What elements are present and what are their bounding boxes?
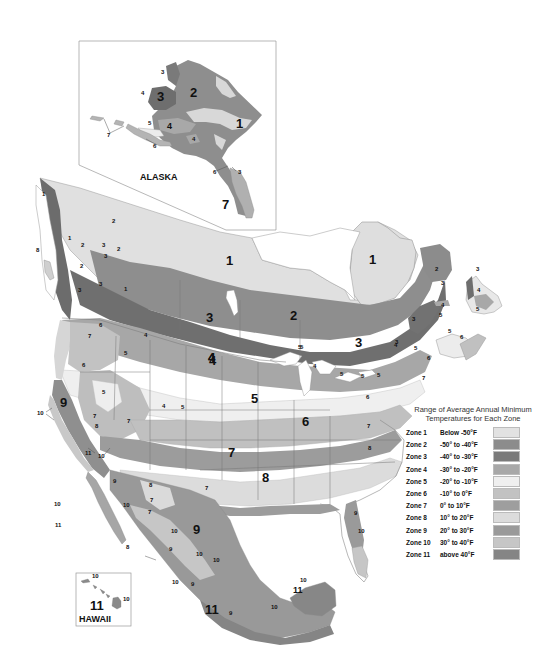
- hawaii-zone-label: 10: [92, 573, 99, 579]
- legend-color-swatch: [493, 500, 520, 511]
- zone-label: 3: [355, 335, 362, 350]
- zone-label: 7: [422, 375, 426, 381]
- legend-color-swatch: [493, 464, 520, 475]
- legend-color-swatch: [493, 439, 520, 450]
- zone-label: 11: [55, 522, 62, 528]
- legend-zone-name: Zone 6: [406, 490, 427, 497]
- alaska-title: ALASKA: [140, 172, 178, 182]
- zone-label: 11: [293, 585, 303, 595]
- legend-title-line-2: Temperatures for Each Zone: [408, 414, 538, 423]
- legend-color-swatch: [493, 512, 520, 523]
- alaska-zone-label: 7: [222, 197, 229, 212]
- alaska-zone-label: 4: [167, 121, 172, 131]
- legend-zone-range: 30° to 40°F: [440, 539, 473, 546]
- legend-zone-name: Zone 9: [406, 527, 427, 534]
- zone-label: 1: [369, 252, 376, 267]
- legend-row: Zone 810° to 20°F: [400, 512, 551, 524]
- zone-label: 9: [60, 395, 67, 410]
- legend-zone-range: -30° to -20°F: [440, 466, 478, 473]
- zone-label: 2: [290, 308, 297, 323]
- legend-color-swatch: [493, 549, 520, 560]
- zone-label: 10: [196, 551, 203, 557]
- zone-label: 10: [213, 557, 220, 563]
- legend-zone-range: -10° to 0°F: [440, 490, 472, 497]
- zone-label: 11: [85, 450, 92, 456]
- legend-row: Zone 4-30° to -20°F: [400, 464, 551, 476]
- legend: Range of Average Annual Minimum Temperat…: [400, 405, 551, 561]
- legend-zone-range: 10° to 20°F: [440, 514, 473, 521]
- legend-rows: Zone 1Below -50°FZone 2-50° to -40°FZone…: [400, 427, 551, 561]
- zone-label: 8: [36, 247, 40, 253]
- zone-label: 1: [226, 253, 233, 268]
- zone-label: 8: [262, 470, 269, 485]
- legend-row: Zone 6-10° to 0°F: [400, 488, 551, 500]
- legend-row: Zone 920° to 30°F: [400, 525, 551, 537]
- hardiness-zone-map: 3 2 1 3 4 4 5 4 7 6 6 3 7 ALASKA: [0, 0, 551, 665]
- zone-label: 5: [300, 344, 304, 350]
- legend-zone-name: Zone 10: [406, 539, 431, 546]
- zone-label: 4: [209, 353, 217, 368]
- zone-label: 8: [126, 544, 130, 550]
- hawaii-title: HAWAII: [79, 614, 111, 624]
- zone-label: 10: [300, 577, 307, 583]
- zone-label: 10: [37, 410, 44, 416]
- zone-label: 5: [251, 391, 258, 406]
- legend-zone-name: Zone 7: [406, 502, 427, 509]
- zone-label: 9: [193, 522, 200, 537]
- zone-label: 6: [302, 414, 309, 429]
- zone-label: 10: [358, 528, 365, 534]
- alaska-zone-label: 3: [157, 89, 164, 104]
- hawaii-zone-label: 10: [123, 596, 130, 602]
- zone-label: 7: [228, 445, 235, 460]
- legend-color-swatch: [493, 525, 520, 536]
- legend-color-swatch: [493, 537, 520, 548]
- legend-zone-name: Zone 8: [406, 514, 427, 521]
- zone-label: 10: [172, 579, 179, 585]
- legend-zone-name: Zone 4: [406, 466, 427, 473]
- zone-label: 5: [439, 312, 443, 318]
- legend-zone-name: Zone 1: [406, 429, 427, 436]
- legend-color-swatch: [493, 427, 520, 438]
- zone-label: 3: [206, 310, 213, 325]
- legend-zone-name: Zone 3: [406, 453, 427, 460]
- zone-label: 3: [476, 266, 480, 272]
- legend-zone-name: Zone 11: [406, 551, 430, 558]
- legend-zone-name: Zone 2: [406, 441, 427, 448]
- legend-row: Zone 5-20° to -10°F: [400, 476, 551, 488]
- legend-row: Zone 70° to 10°F: [400, 500, 551, 512]
- legend-zone-range: -50° to -40°F: [440, 441, 478, 448]
- legend-color-swatch: [493, 476, 520, 487]
- legend-row: Zone 1Below -50°F: [400, 427, 551, 439]
- zone-label: 5: [448, 328, 452, 334]
- legend-color-swatch: [493, 488, 520, 499]
- zone-label: 10: [98, 453, 105, 459]
- legend-zone-range: 0° to 10°F: [440, 502, 470, 509]
- legend-color-swatch: [493, 451, 520, 462]
- legend-zone-range: above 40°F: [440, 551, 474, 558]
- legend-row: Zone 3-40° to -30°F: [400, 451, 551, 463]
- zone-label: 5: [414, 345, 418, 351]
- hawaii-zone-label: 11: [90, 598, 104, 613]
- legend-zone-range: Below -50°F: [440, 429, 477, 436]
- legend-title-line-1: Range of Average Annual Minimum: [408, 405, 538, 414]
- alaska-zone-label: 1: [236, 116, 243, 131]
- alaska-zone-label: 2: [190, 85, 197, 100]
- legend-title: Range of Average Annual Minimum Temperat…: [408, 405, 538, 423]
- legend-row: Zone 2-50° to -40°F: [400, 439, 551, 451]
- legend-zone-range: 20° to 30°F: [440, 527, 473, 534]
- legend-zone-range: -40° to -30°F: [440, 453, 478, 460]
- zone-label: 10: [171, 528, 178, 534]
- florida-zone-10: [352, 546, 368, 578]
- zone-label: 2: [80, 263, 84, 269]
- hawaii-inset: 10 11 10 HAWAII: [76, 573, 131, 626]
- legend-row: Zone 1030° to 40°F: [400, 537, 551, 549]
- legend-row: Zone 11above 40°F: [400, 549, 551, 561]
- zone-label: 11: [205, 602, 219, 617]
- zone-label: 10: [54, 501, 61, 507]
- zone-label: 10: [271, 604, 278, 610]
- legend-zone-range: -20° to -10°F: [440, 478, 478, 485]
- zone-label: 10: [123, 502, 130, 508]
- legend-zone-name: Zone 5: [406, 478, 427, 485]
